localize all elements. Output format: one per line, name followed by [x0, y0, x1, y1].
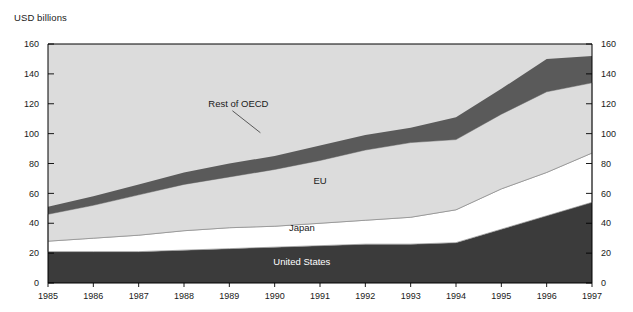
x-tick-label: 1994: [446, 291, 466, 301]
y-tick-label-right: 160: [601, 39, 616, 49]
y-tick-label-right: 0: [601, 278, 606, 288]
y-tick-label-left: 20: [29, 248, 39, 258]
y-tick-label-right: 100: [601, 129, 616, 139]
y-tick-label-left: 160: [24, 39, 39, 49]
y-tick-label-right: 60: [601, 189, 611, 199]
x-tick-label: 1990: [265, 291, 285, 301]
y-tick-label-left: 0: [34, 278, 39, 288]
annotation-united-states: United States: [273, 256, 330, 267]
y-tick-label-right: 20: [601, 248, 611, 258]
annotation-eu: EU: [313, 175, 326, 186]
chart-root: USD billions 002020404060608080100100120…: [0, 0, 633, 312]
y-tick-label-left: 60: [29, 189, 39, 199]
x-tick-label: 1986: [83, 291, 103, 301]
y-tick-label-left: 140: [24, 69, 39, 79]
x-tick-label: 1996: [537, 291, 557, 301]
y-tick-label-right: 80: [601, 159, 611, 169]
x-tick-label: 1985: [38, 291, 58, 301]
y-tick-label-left: 100: [24, 129, 39, 139]
y-tick-label-left: 120: [24, 99, 39, 109]
x-tick-label: 1987: [129, 291, 149, 301]
x-tick-label: 1997: [582, 291, 602, 301]
y-tick-label-right: 40: [601, 218, 611, 228]
y-tick-label-left: 80: [29, 159, 39, 169]
x-tick-label: 1991: [310, 291, 330, 301]
annotation-rest-of-oecd: Rest of OECD: [208, 98, 268, 109]
x-tick-label: 1989: [219, 291, 239, 301]
x-tick-label: 1995: [491, 291, 511, 301]
y-tick-label-right: 120: [601, 99, 616, 109]
x-tick-label: 1992: [355, 291, 375, 301]
y-tick-label-left: 40: [29, 218, 39, 228]
stacked-area-chart: 0020204040606080801001001201201401401601…: [0, 0, 633, 312]
x-tick-label: 1993: [401, 291, 421, 301]
annotation-japan: Japan: [289, 222, 315, 233]
x-tick-label: 1988: [174, 291, 194, 301]
y-tick-label-right: 140: [601, 69, 616, 79]
